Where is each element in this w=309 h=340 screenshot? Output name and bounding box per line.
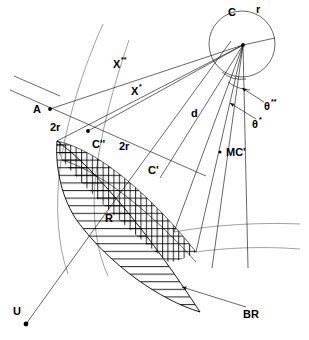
label-point-c-prime: C' bbox=[148, 164, 159, 176]
label-point-u: U bbox=[13, 305, 21, 317]
svg-text:X: X bbox=[131, 85, 139, 97]
svg-text:**: ** bbox=[121, 56, 127, 63]
label-center-c: C bbox=[228, 6, 236, 18]
svg-text:θ: θ bbox=[264, 100, 270, 112]
point-u-dot bbox=[24, 322, 29, 327]
swept-region-hatched bbox=[40, 130, 230, 330]
label-theta-double-star: θ ** bbox=[264, 98, 277, 112]
label-theta-star: θ * bbox=[252, 116, 262, 130]
svg-text:*: * bbox=[139, 83, 142, 90]
svg-text:*: * bbox=[259, 116, 262, 123]
reference-circle bbox=[209, 11, 275, 77]
label-two-r-left: 2r bbox=[50, 121, 61, 133]
svg-text:θ: θ bbox=[252, 118, 258, 130]
point-cdp-dot bbox=[86, 129, 90, 133]
svg-text:**: ** bbox=[271, 98, 277, 105]
label-distance-d: d bbox=[191, 107, 198, 119]
label-chord-x-star: X * bbox=[131, 83, 142, 97]
label-point-mc-prime: MC' bbox=[226, 146, 246, 158]
label-chord-x-double-star: X ** bbox=[113, 56, 127, 70]
label-boundary-br: BR bbox=[243, 308, 259, 320]
point-a-dot bbox=[48, 107, 52, 111]
geometry-illustration: C r A 2r C'' 2r C' R U d MC' BR X ** X *… bbox=[0, 0, 309, 340]
label-point-r: R bbox=[105, 212, 113, 224]
label-radius-r: r bbox=[256, 3, 261, 15]
diagram-canvas: C r A 2r C'' 2r C' R U d MC' BR X ** X *… bbox=[0, 0, 309, 340]
svg-text:X: X bbox=[113, 58, 121, 70]
point-mcp-dot bbox=[219, 151, 222, 154]
label-point-c-double-prime: C'' bbox=[92, 138, 106, 150]
label-two-r-right: 2r bbox=[119, 140, 130, 152]
label-point-a: A bbox=[33, 103, 41, 115]
